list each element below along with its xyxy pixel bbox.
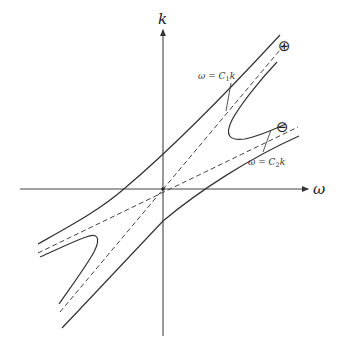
minus-branch-label: ⊖	[276, 118, 289, 136]
plus-branch-label: ⊕	[278, 37, 291, 55]
omega-axis-label: ω	[313, 180, 325, 198]
dispersion-diagram: k ω ⊕ ⊖ ω = C1k ω = C2k	[0, 0, 340, 350]
c1-leader-line	[226, 83, 231, 111]
asymptote-c1-label: ω = C1k	[198, 71, 235, 83]
k-axis-label: k	[158, 10, 167, 28]
asymptote-c2-label: ω = C2k	[248, 157, 285, 169]
asymptote-c2-line	[38, 127, 298, 253]
asymptote-c1-line	[60, 44, 285, 312]
minus-branch-curve	[40, 235, 98, 304]
